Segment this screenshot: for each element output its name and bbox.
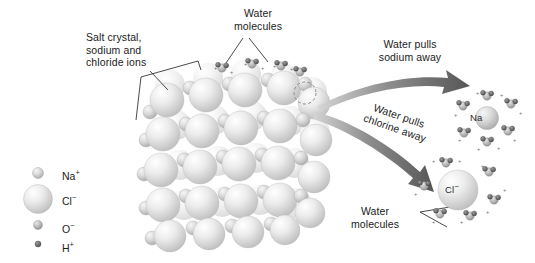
legend-oxygen-sphere: [34, 221, 43, 230]
label-water-molecules-top: Water molecules: [210, 7, 306, 32]
svg-text:+: +: [477, 146, 480, 152]
svg-text:+: +: [513, 137, 516, 143]
legend-label-sodium: Na+: [62, 168, 80, 182]
legend-chloride-charge: −: [72, 193, 76, 202]
legend-oxygen-text: O: [62, 223, 70, 235]
svg-text:+: +: [503, 187, 506, 193]
svg-text:+: +: [500, 92, 503, 98]
svg-text:+: +: [476, 90, 479, 96]
hydrated-chloride-ion: ++ ++ ++ ++: [414, 157, 506, 225]
svg-text:+: +: [244, 61, 247, 67]
legend-hydrogen-charge: +: [70, 240, 74, 249]
legend-sodium-text: Na: [62, 170, 75, 182]
hydrated-sodium-ion: ++ ++ ++ ++: [454, 90, 522, 152]
legend-label-oxygen: O−: [62, 221, 75, 235]
svg-text:+: +: [486, 209, 489, 215]
legend-chloride-text: Cl: [62, 195, 72, 207]
legend-sodium-charge: +: [75, 168, 79, 177]
legend-label-chloride: Cl−: [62, 193, 76, 207]
svg-text:+: +: [214, 65, 217, 71]
svg-text:+: +: [481, 163, 484, 169]
svg-text:+: +: [273, 63, 276, 69]
svg-text:+: +: [290, 66, 293, 72]
label-water-molecules-chloride: Water molecules: [333, 205, 417, 230]
svg-text:+: +: [432, 158, 435, 164]
legend-oxygen-charge: −: [70, 221, 74, 230]
diagram-canvas: ++ ++ ++: [0, 0, 535, 263]
svg-text:+: +: [261, 65, 264, 71]
svg-text:+: +: [458, 137, 461, 143]
label-water-pulls-sodium: Water pulls sodium away: [355, 38, 465, 63]
legend-label-hydrogen: H+: [62, 240, 74, 254]
legend-sodium-sphere: [33, 168, 44, 179]
svg-text:+: +: [458, 158, 461, 164]
legend-swatches: [24, 168, 53, 248]
legend-hydrogen-sphere: [35, 241, 41, 247]
svg-text:+: +: [432, 219, 435, 225]
svg-text:+: +: [519, 110, 522, 116]
svg-text:+: +: [414, 191, 417, 197]
legend-hydrogen-text: H: [62, 242, 70, 254]
svg-text:+: +: [454, 112, 457, 118]
svg-text:+: +: [497, 145, 500, 151]
label-salt-crystal: Salt crystal, sodium and chloride ions: [86, 31, 146, 69]
svg-text:+: +: [460, 219, 463, 225]
legend-chloride-sphere: [24, 185, 53, 214]
svg-text:+: +: [230, 69, 233, 75]
sodium-arrow: [318, 70, 470, 112]
